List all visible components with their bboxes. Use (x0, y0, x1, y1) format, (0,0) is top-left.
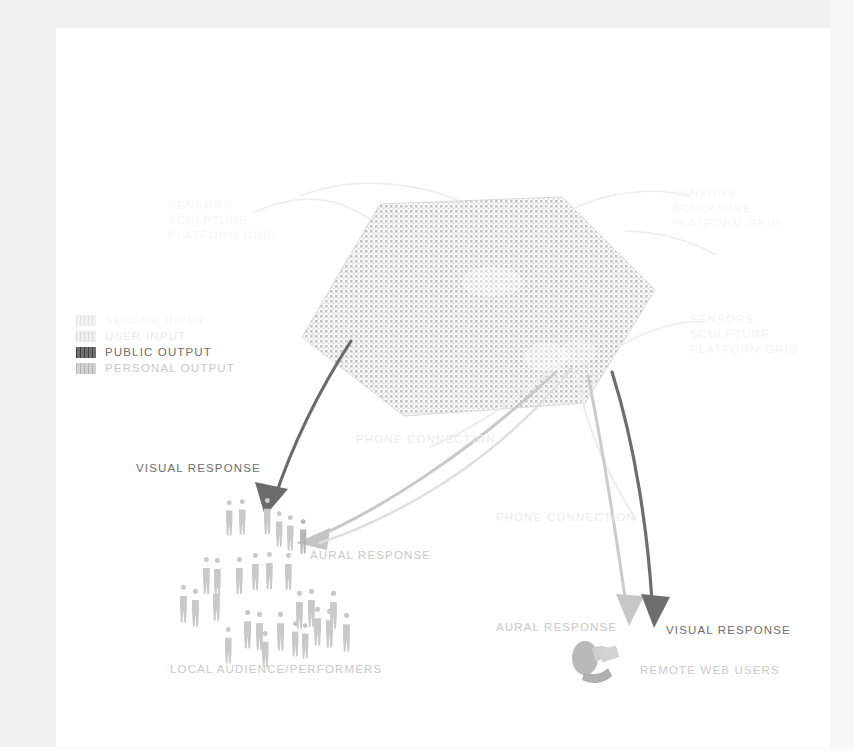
label-visual-response-remote: VISUAL RESPONSE (666, 623, 791, 638)
legend-item-user-input[interactable]: USER INPUT (76, 329, 316, 344)
label-aural-response-remote: AURAL RESPONSE (496, 620, 617, 635)
label-phone-connection-1: PHONE CONNECTION (356, 432, 496, 447)
legend-label-personal-output: PERSONAL OUTPUT (105, 363, 235, 374)
page-margin-left (0, 0, 56, 751)
legend-swatch-sensor-input (76, 315, 96, 326)
label-remote-web-users: REMOTE WEB USERS (640, 663, 780, 678)
legend-swatch-public-output (76, 347, 96, 358)
diagram-page (56, 28, 830, 747)
label-phone-connection-2: PHONE CONNECTION (496, 510, 636, 525)
label-sensor-platform-top-right: SENSORS SCULPTURE PLATFORM GRID (672, 186, 822, 231)
legend-label-user-input: USER INPUT (105, 331, 186, 342)
page-margin-bottom (0, 747, 854, 751)
label-sensor-platform-right: SENSORS SCULPTURE PLATFORM GRID (690, 312, 840, 357)
legend-swatch-personal-output (76, 363, 96, 374)
label-sensor-platform-top-left: SENSORS SCULPTURE PLATFORM GRID (168, 198, 318, 243)
diagram-canvas: SENSOR INPUT USER INPUT PUBLIC OUTPUT PE… (0, 0, 854, 751)
label-aural-response-local: AURAL RESPONSE (310, 548, 431, 563)
page-margin-top (0, 0, 854, 28)
label-visual-response-local: VISUAL RESPONSE (136, 461, 261, 476)
legend-item-sensor-input[interactable]: SENSOR INPUT (76, 313, 316, 328)
legend: SENSOR INPUT USER INPUT PUBLIC OUTPUT PE… (76, 313, 316, 377)
label-local-audience-performers: LOCAL AUDIENCE/PERFORMERS (170, 662, 382, 677)
legend-item-public-output[interactable]: PUBLIC OUTPUT (76, 345, 316, 360)
legend-label-public-output: PUBLIC OUTPUT (105, 347, 212, 358)
legend-label-sensor-input: SENSOR INPUT (105, 315, 205, 326)
legend-swatch-user-input (76, 331, 96, 342)
page-margin-right (830, 0, 854, 751)
legend-item-personal-output[interactable]: PERSONAL OUTPUT (76, 361, 316, 376)
